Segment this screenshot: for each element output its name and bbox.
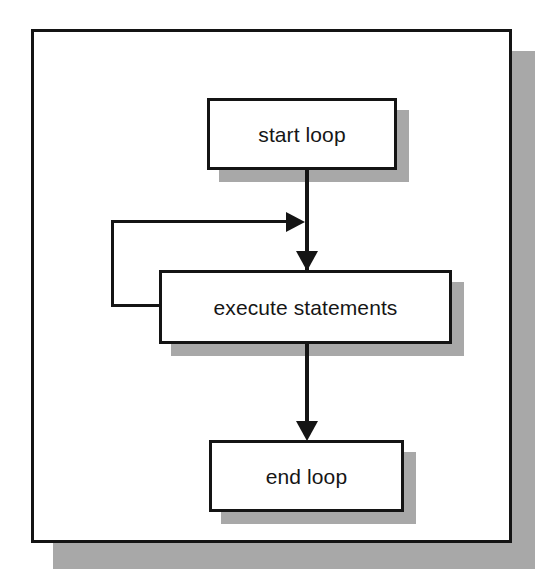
diagram-frame: start loop execute statements end loop [31,29,512,543]
edge-feedback-arrowhead-icon [286,212,305,232]
start-loop-box[interactable]: start loop [207,98,397,170]
edge-feedback-bottom-segment [111,304,162,307]
start-loop-label: start loop [258,124,345,145]
edge-start-to-execute-arrowhead-icon [296,251,318,271]
edge-execute-to-end-line [305,344,309,424]
diagram-canvas: start loop execute statements end loop [0,0,559,588]
end-loop-label: end loop [266,466,347,487]
edge-feedback-left-segment [111,220,114,307]
edge-execute-to-end-arrowhead-icon [296,421,318,441]
execute-statements-box[interactable]: execute statements [159,270,452,344]
execute-statements-label: execute statements [214,297,398,318]
end-loop-box[interactable]: end loop [209,440,404,512]
edge-feedback-top-segment [111,220,301,223]
